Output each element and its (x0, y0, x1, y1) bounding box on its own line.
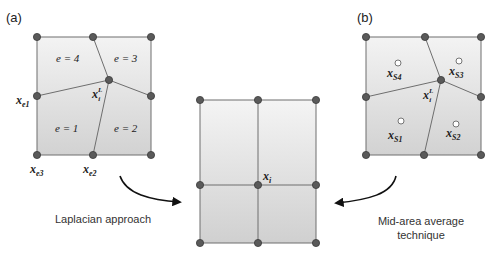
node (33, 92, 40, 99)
node (420, 151, 427, 158)
node (196, 96, 203, 103)
node (33, 151, 40, 158)
arrow-left-icon (120, 176, 180, 202)
centroid-s1 (398, 118, 404, 124)
node (147, 33, 154, 40)
node (312, 239, 319, 246)
node (312, 181, 319, 188)
node (147, 151, 154, 158)
node (312, 96, 319, 103)
caption-mid-area-line2: technique (397, 229, 445, 241)
node (33, 33, 40, 40)
node (254, 96, 261, 103)
element-label-e1: e = 1 (55, 122, 78, 134)
panel-a: (a) e = 4 e = 3 e = 1 e = 2 xe1 xe3 xe2 … (6, 10, 155, 178)
caption-laplacian: Laplacian approach (55, 213, 151, 225)
caption-mid-area-line1: Mid-area average (378, 215, 464, 227)
node (477, 93, 484, 100)
node (147, 92, 154, 99)
node-label-xe3: xe3 (29, 162, 44, 178)
node-interior (254, 181, 261, 188)
mesh-diagram: (a) e = 4 e = 3 e = 1 e = 2 xe1 xe3 xe2 … (0, 0, 502, 262)
node (89, 33, 96, 40)
panel-b: (b) xS4 xS3 xS1 xS2 xLi (357, 10, 485, 159)
node-label-xe1: xe1 (15, 93, 30, 109)
centroid-s4 (395, 60, 401, 66)
element-label-e3: e = 3 (114, 52, 138, 64)
node (477, 33, 484, 40)
centroid-s2 (453, 121, 459, 127)
panel-a-label: (a) (6, 10, 22, 25)
arrow-right-icon (336, 176, 396, 203)
node (196, 239, 203, 246)
node (477, 151, 484, 158)
node (89, 151, 96, 158)
node (362, 33, 369, 40)
element-label-e2: e = 2 (114, 122, 138, 134)
node-interior (105, 76, 112, 83)
node (196, 181, 203, 188)
node (254, 239, 261, 246)
centroid-s3 (456, 58, 462, 64)
panel-b-label: (b) (357, 10, 373, 25)
panel-center: xi (196, 96, 319, 246)
node-interior (437, 76, 444, 83)
node (421, 33, 428, 40)
node (362, 151, 369, 158)
node (362, 93, 369, 100)
element-label-e4: e = 4 (56, 52, 80, 64)
node-label-xe2: xe2 (82, 162, 97, 178)
